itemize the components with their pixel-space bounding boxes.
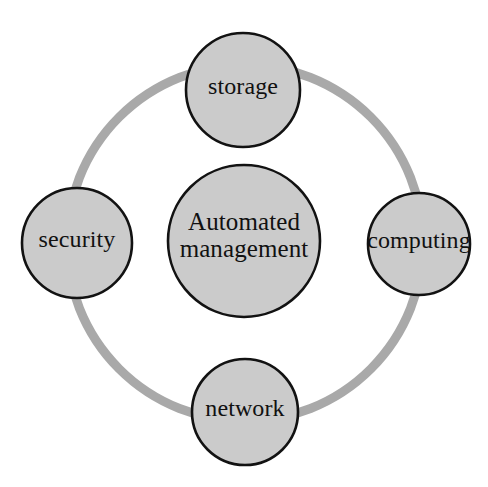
node-circle-automated-management[interactable]: [168, 165, 320, 317]
node-circle-computing[interactable]: [368, 193, 470, 295]
diagram-canvas: Automated management storage computing n…: [0, 0, 488, 487]
diagram-graphics: [0, 0, 488, 487]
node-circle-network[interactable]: [192, 359, 298, 465]
node-circle-security[interactable]: [22, 188, 132, 298]
node-circle-storage[interactable]: [186, 33, 300, 147]
